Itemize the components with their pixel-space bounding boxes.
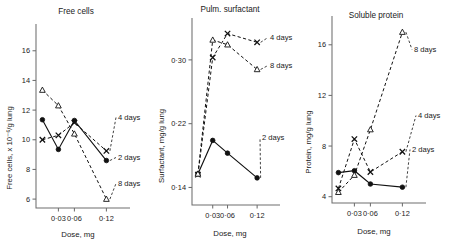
series-label-8-days: 8 days [270,61,293,70]
series-label-8-days: 8 days [414,45,437,54]
y-tick-label-1-2: 10 [22,135,30,144]
axis-lines-1 [36,24,130,208]
series-leader-2-days [260,138,261,178]
series-line-2-days [42,120,106,161]
y-tick-label-1-1: 8 [26,165,30,174]
marker-4-days-3 [400,149,405,154]
y-axis-label-1: Free cells, x 10⁻⁶/g lung [5,106,14,189]
marker-4-days-0 [40,137,45,142]
series-label-2-days: 2 days [262,133,285,142]
series-label-4-days: 4 days [270,33,293,42]
y-tick-label-1-5: 16 [22,46,30,55]
marker-4-days-2 [225,31,230,36]
y-tick-label-1-0: 6 [26,195,30,204]
y-tick-label-3-0: 4 [322,192,326,201]
series-label-4-days: 4 days [118,113,141,122]
series-label-2-days: 2 days [118,153,141,162]
series-leader-8-days [261,66,268,70]
marker-8-days-2 [368,127,374,132]
y-tick-label-3-3: 16 [318,40,326,49]
chart-panel-1: Free cells68101214160·030·060·12Dose, mg… [0,0,152,248]
x-tick-label-3-1: 0·06 [363,209,378,218]
marker-2-days-1 [210,138,215,143]
marker-4-days-1 [56,133,61,138]
chart-panel-3: Soluble protein4812160·030·060·12Dose, m… [300,0,451,248]
chart-title-1: Free cells [58,7,94,16]
y-tick-label-3-1: 8 [322,142,326,151]
marker-8-days-1 [210,37,216,42]
marker-8-days-3 [400,29,406,34]
figure-three-panel-dose-response: Free cells68101214160·030·060·12Dose, mg… [0,0,451,248]
marker-8-days-2 [72,131,78,136]
series-leader-4-days [261,38,268,43]
marker-2-days-3 [255,176,260,181]
marker-2-days-0 [40,117,45,122]
series-line-8-days [42,90,106,199]
y-axis-label-2: Surfactant, mg/g lung [157,109,166,183]
series-leader-4-days [110,118,116,151]
series-label-4-days: 4 days [418,111,441,120]
series-line-2-days [198,140,257,177]
y-tick-label-3-2: 12 [318,91,326,100]
chart-svg-2: Pulm. surfactant0·140·220·300·030·060·12… [150,0,302,248]
chart-panel-2: Pulm. surfactant0·140·220·300·030·060·12… [150,0,302,248]
x-tick-label-1-1: 0·06 [67,214,82,223]
chart-title-3: Soluble protein [349,11,404,20]
chart-svg-3: Soluble protein4812160·030·060·12Dose, m… [300,0,451,248]
series-label-8-days: 8 days [118,179,141,188]
x-tick-label-2-0: 0·03 [205,211,220,220]
y-tick-label-2-2: 0·30 [171,56,186,65]
series-leader-8-days [110,184,116,200]
chart-title-2: Pulm. surfactant [200,5,260,14]
marker-2-days-1 [56,147,61,152]
marker-2-days-2 [368,182,373,187]
x-tick-label-2-2: 0·12 [250,211,265,220]
y-tick-label-1-4: 14 [22,76,30,85]
x-tick-label-1-2: 0·12 [99,214,114,223]
x-axis-label-2: Dose, mg [213,229,246,238]
chart-svg-1: Free cells68101214160·030·060·12Dose, mg… [0,0,152,248]
marker-4-days-3 [104,148,109,153]
marker-2-days-3 [400,185,405,190]
x-tick-label-1-0: 0·03 [51,214,66,223]
marker-4-days-2 [368,169,373,174]
x-tick-label-3-0: 0·03 [347,209,362,218]
x-tick-label-2-1: 0·06 [220,211,235,220]
series-leader-2-days [406,150,410,188]
marker-2-days-0 [336,170,341,175]
marker-4-days-1 [352,136,357,141]
series-line-8-days [338,32,402,192]
marker-8-days-0 [40,87,46,92]
y-tick-label-2-0: 0·14 [171,183,186,192]
y-axis-label-3: Protein, mg/g lung [304,110,313,173]
x-tick-label-3-2: 0·12 [395,209,410,218]
marker-8-days-3 [104,196,110,201]
y-tick-label-1-3: 12 [22,106,30,115]
series-line-4-days [338,139,402,188]
marker-2-days-3 [104,158,109,163]
x-axis-label-3: Dose, mg [357,227,390,236]
x-axis-label-1: Dose, mg [61,230,94,239]
marker-2-days-2 [225,151,230,156]
series-leader-8-days [406,32,412,49]
marker-4-days-3 [254,40,259,45]
axis-lines-3 [332,16,426,203]
series-leader-2-days [110,158,116,161]
series-label-2-days: 2 days [412,145,435,154]
y-tick-label-2-1: 0·22 [171,119,186,128]
